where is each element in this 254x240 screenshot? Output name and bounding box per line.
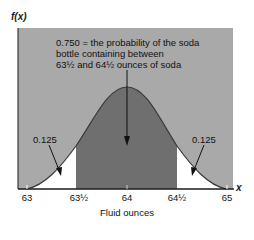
right-tail-label: 0.125: [192, 134, 216, 145]
annotation-line-3: 63½ and 64½ ounces of soda: [56, 59, 199, 70]
x-tick-64-5: 64½: [168, 192, 187, 203]
left-tail-label: 0.125: [33, 134, 57, 145]
x-tick-64: 64: [122, 192, 133, 203]
x-tick-63-5: 63½: [70, 192, 89, 203]
x-axis-title: Fluid ounces: [0, 207, 254, 218]
annotation-line-1: 0.750 = the probability of the soda: [56, 37, 199, 48]
x-tick-63: 63: [22, 192, 33, 203]
center-annotation: 0.750 = the probability of the soda bott…: [56, 37, 199, 70]
annotation-line-2: bottle containing between: [56, 48, 199, 59]
x-axis-variable: x: [236, 182, 242, 193]
x-tick-65: 65: [222, 192, 233, 203]
